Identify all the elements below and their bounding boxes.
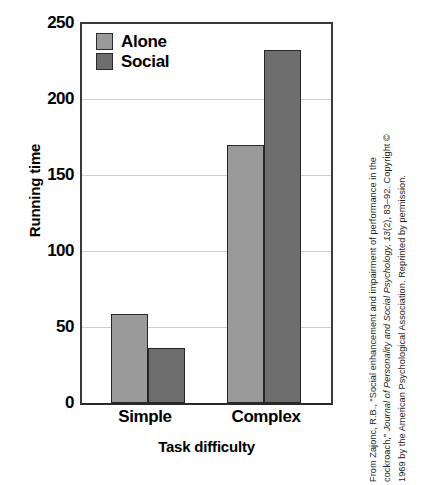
source-credit: From Zajonc, R.B., “Social enhancement a… (338, 0, 437, 485)
legend-item-alone: Alone (96, 33, 216, 50)
legend-label-social: Social (121, 53, 169, 70)
legend-label-alone: Alone (121, 33, 167, 50)
x-tick-complex: Complex (206, 408, 326, 425)
bar-simple-social (148, 348, 185, 403)
chart-area: Running time 250 200 150 100 50 0 (0, 0, 340, 485)
x-axis-title: Task difficulty (80, 438, 333, 455)
source-credit-text: From Zajonc, R.B., “Social enhancement a… (366, 4, 409, 482)
bar-complex-social (264, 50, 301, 403)
bar-group-container (82, 24, 331, 403)
credit-line-2-pre: cockroach,” (382, 431, 392, 482)
y-tick-50: 50 (28, 318, 74, 335)
legend-item-social: Social (96, 53, 216, 70)
x-axis-tick-labels: Simple Complex (80, 408, 333, 430)
legend-swatch-icon-alone (96, 33, 113, 50)
credit-line-2-post: (2), 83–92. Copyright © (382, 134, 392, 231)
y-tick-250: 250 (28, 14, 74, 31)
bar-simple-alone (111, 314, 148, 403)
credit-line-3: 1969 by the American Psychological Assoc… (397, 175, 407, 482)
credit-line-1: From Zajonc, R.B., “Social enhancement a… (368, 157, 378, 482)
figure-bar-chart-with-credit: Running time 250 200 150 100 50 0 (0, 0, 437, 485)
y-tick-200: 200 (28, 90, 74, 107)
legend-swatch-icon-social (96, 53, 113, 70)
x-tick-simple: Simple (90, 408, 200, 425)
y-tick-0: 0 (28, 394, 74, 411)
legend: Alone Social (96, 33, 216, 73)
y-axis-tick-labels: 250 200 150 100 50 0 (14, 0, 74, 485)
y-tick-100: 100 (28, 242, 74, 259)
bar-complex-alone (227, 145, 264, 403)
y-tick-150: 150 (28, 166, 74, 183)
credit-line-2-journal: Journal of Personality and Social Psycho… (382, 230, 392, 430)
plot-area: Alone Social (80, 22, 333, 405)
